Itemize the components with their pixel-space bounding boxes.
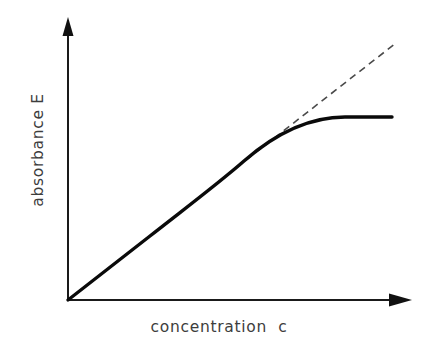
x-axis-arrowhead-icon [389,294,412,307]
y-axis-label-container: absorbance E [10,0,66,300]
chart-figure: concentration c absorbance E [0,0,438,356]
y-axis-label: absorbance E [29,93,47,207]
series-measured-absorbance [68,117,392,300]
x-axis-label: concentration c [0,318,438,336]
